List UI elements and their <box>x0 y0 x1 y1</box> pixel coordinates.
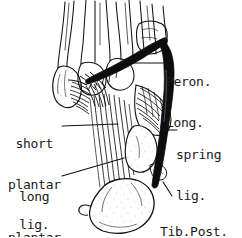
label-tibialis-posterior: Tib.Post. <box>160 198 228 237</box>
label-spring-line1: spring <box>176 148 221 162</box>
label-long-plantar-line2: plantar <box>8 231 61 238</box>
label-short-plantar-line1: short <box>8 137 61 151</box>
label-peroneus-longus-line1: Peron. <box>166 75 211 89</box>
anatomical-figure: Peron. Long. short plantar lig. long pla… <box>0 0 242 237</box>
label-tibialis-posterior-line1: Tib.Post. <box>160 225 228 237</box>
label-long-plantar-line1: long <box>8 190 61 204</box>
label-long-plantar-ligament: long plantar lig. <box>8 163 61 237</box>
